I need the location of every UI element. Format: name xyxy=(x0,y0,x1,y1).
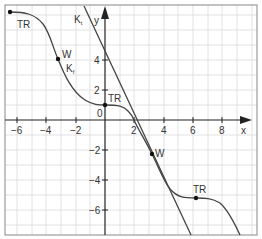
x-tick-label: −4 xyxy=(40,125,52,136)
point-w-1 xyxy=(56,57,60,61)
y-axis-arrow-icon xyxy=(101,6,109,19)
x-tick-label: 6 xyxy=(190,125,196,136)
x-tick-label: 2 xyxy=(131,125,137,136)
point-tr-2 xyxy=(103,103,107,107)
origin-label: 0 xyxy=(97,108,103,119)
x-tick-label: 8 xyxy=(219,125,225,136)
x-axis-label: x xyxy=(241,125,246,136)
x-tick-label: 4 xyxy=(161,125,167,136)
point-w-2 xyxy=(150,152,154,156)
y-tick-label: 2 xyxy=(94,85,100,96)
y-tick-label: −2 xyxy=(89,145,101,156)
y-tick-label: −4 xyxy=(89,175,101,186)
x-tick-label: −2 xyxy=(70,125,82,136)
point-tr-1 xyxy=(8,10,12,14)
label-kt: Kt xyxy=(74,14,83,26)
label-w-1: W xyxy=(62,49,72,60)
y-axis-label: y xyxy=(94,15,99,26)
label-tr-3: TR xyxy=(193,184,206,195)
label-tr-2: TR xyxy=(108,93,121,104)
y-tick-label: 4 xyxy=(94,55,100,66)
label-tr-1: TR xyxy=(17,19,30,30)
y-tick-label: −6 xyxy=(89,205,101,216)
point-tr-3 xyxy=(194,196,198,200)
function-graph: −6 −4 −2 2 4 6 8 x y 0 4 2 −2 −4 −6 TR W… xyxy=(0,0,262,239)
label-kf: Kf xyxy=(66,63,75,75)
label-w-2: W xyxy=(155,148,165,159)
x-axis-arrow-icon xyxy=(240,116,252,124)
function-curve-kf xyxy=(10,12,240,235)
x-tick-label: −6 xyxy=(11,125,23,136)
